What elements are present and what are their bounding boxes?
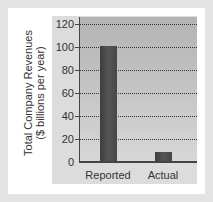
y-tick-label: 20 xyxy=(44,133,74,145)
y-tick-label: 60 xyxy=(44,87,74,99)
y-tick-label: 100 xyxy=(44,41,74,53)
gridline xyxy=(80,139,197,140)
plot-area xyxy=(80,17,197,162)
bar-reported xyxy=(100,46,117,162)
y-axis-title: Total Company Revenues ($ billions per y… xyxy=(22,18,46,168)
y-axis-title-line-1: Total Company Revenues xyxy=(22,18,34,168)
y-axis-line xyxy=(79,17,80,163)
y-tick-label: 40 xyxy=(44,110,74,122)
gridline xyxy=(80,116,197,117)
y-tick-label: 120 xyxy=(44,18,74,30)
y-tick-label: 80 xyxy=(44,64,74,76)
x-axis-line xyxy=(79,161,197,163)
x-label-actual: Actual xyxy=(133,169,193,182)
y-tick-label: 0 xyxy=(44,156,74,168)
gridline xyxy=(80,70,197,71)
x-label-reported: Reported xyxy=(78,169,138,182)
gridline xyxy=(80,24,197,25)
gridline xyxy=(80,47,197,48)
gridline xyxy=(80,93,197,94)
